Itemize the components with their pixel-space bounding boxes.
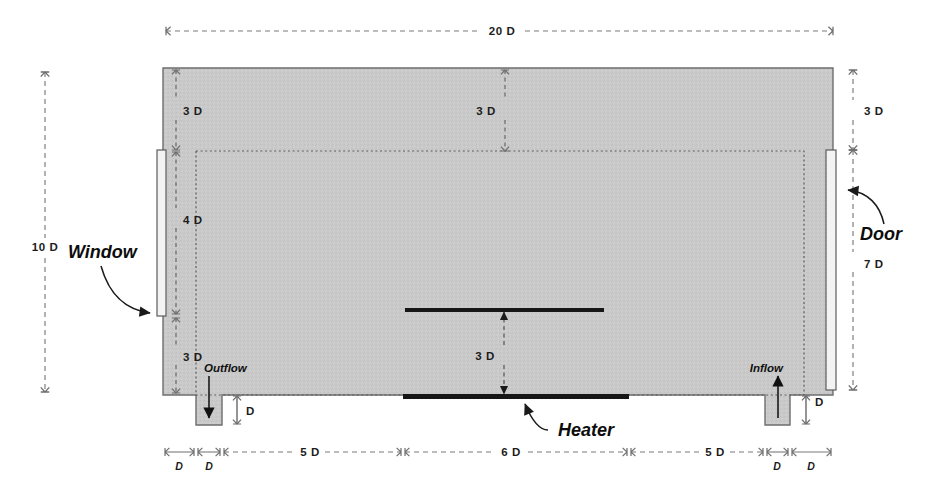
dim-label-left-lower: 3 D	[183, 351, 203, 363]
dim-label-bottom-5: 5 D	[705, 446, 725, 458]
dim-label-bottom-4: 6 D	[501, 446, 521, 458]
heater-bar-bottom	[403, 394, 629, 399]
dim-label-inflow-depth: D	[815, 396, 824, 408]
diagram-canvas: 20 D 10 D 3 D 3 D 3 D	[0, 0, 945, 494]
dim-label-bottom-2: D	[205, 460, 213, 472]
door-panel[interactable]	[826, 150, 836, 390]
dim-label-door-height: 7 D	[864, 258, 884, 270]
dimension-overall-width: 20 D	[166, 25, 833, 37]
dimension-door-height: 7 D	[853, 150, 884, 390]
dim-label-window-height: 4 D	[183, 214, 203, 226]
window-callout-label: Window	[68, 242, 138, 262]
dim-label-top-left-inner: 3 D	[183, 105, 203, 117]
dim-label-bottom-6: D	[773, 460, 781, 472]
door-callout: Door	[848, 190, 903, 244]
inflow-label: Inflow	[750, 362, 784, 374]
dim-label-bottom-1: D	[175, 460, 183, 472]
dim-label-outflow-depth: D	[246, 405, 255, 417]
dim-label-top-center-inner: 3 D	[476, 105, 496, 117]
heater-leader-line	[525, 404, 548, 430]
outflow-label: Outflow	[204, 362, 248, 374]
dimension-right-top: 3 D	[853, 70, 884, 150]
bottom-dimension-chain: D D 5 D 6 D 5 D D D	[165, 446, 831, 472]
heater-callout: Heater	[525, 404, 615, 440]
dim-label-overall-height: 10 D	[32, 241, 59, 253]
window-element[interactable]	[157, 150, 166, 316]
room-body	[163, 68, 833, 425]
room-schematic-svg: 20 D 10 D 3 D 3 D 3 D	[0, 0, 945, 494]
dim-label-bottom-3: 5 D	[300, 446, 320, 458]
heater-bar-top	[405, 308, 604, 312]
dimension-overall-height: 10 D	[32, 72, 59, 392]
window-callout: Window	[68, 242, 150, 313]
window-panel[interactable]	[157, 150, 166, 316]
window-leader-line	[101, 266, 150, 313]
dim-label-heater-gap: 3 D	[475, 350, 495, 362]
dim-label-bottom-7: D	[807, 460, 815, 472]
heater-callout-label: Heater	[558, 420, 615, 440]
door-element[interactable]	[826, 150, 836, 390]
room-outline-group	[163, 68, 833, 425]
dim-label-right-top: 3 D	[864, 105, 884, 117]
door-callout-label: Door	[860, 224, 903, 244]
dim-label-overall-width: 20 D	[489, 25, 516, 37]
